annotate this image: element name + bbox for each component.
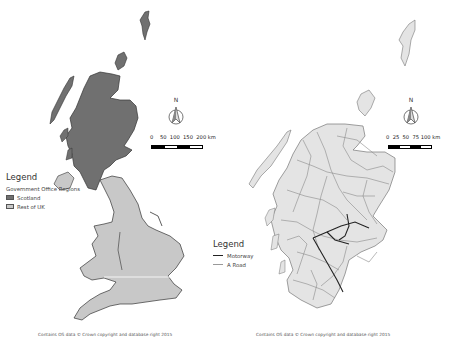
a-road-line-swatch bbox=[213, 264, 223, 265]
scotland-swatch bbox=[6, 195, 14, 200]
north-arrow-icon bbox=[401, 104, 421, 128]
uk-regions-map-panel: Legend Government Office Regions Scotlan… bbox=[0, 0, 227, 344]
legend-title: Legend bbox=[213, 239, 253, 249]
scale-bar-graphic bbox=[388, 145, 432, 149]
legend-item-a-road: A Road bbox=[213, 261, 253, 268]
north-label: N bbox=[401, 96, 421, 103]
copyright-credit: Contains OS data © Crown copyright and d… bbox=[38, 332, 172, 337]
north-arrow-icon bbox=[166, 104, 186, 128]
scale-labels: 0 25 50 75 100 km bbox=[386, 134, 440, 140]
legend-title: Legend bbox=[6, 172, 80, 182]
legend-item-rest-of-uk: Rest of UK bbox=[6, 203, 80, 210]
roads-legend: Legend Motorway A Road bbox=[213, 239, 253, 268]
orkney-shape bbox=[115, 52, 127, 70]
scale-labels: 0 50 100 150 200 km bbox=[150, 134, 216, 140]
north-arrow: N bbox=[401, 98, 421, 128]
england-wales-shape bbox=[74, 176, 184, 320]
rest-of-uk-swatch bbox=[6, 204, 14, 209]
legend-item-label: A Road bbox=[227, 262, 246, 268]
copyright-credit: Contains OS data © Crown copyright and d… bbox=[256, 332, 390, 337]
north-label: N bbox=[166, 96, 186, 103]
legend-item-motorway: Motorway bbox=[213, 252, 253, 259]
legend-item-label: Scotland bbox=[17, 195, 40, 201]
scotland-mainland-shape bbox=[271, 124, 395, 308]
legend-item-scotland: Scotland bbox=[6, 194, 80, 201]
legend-item-label: Rest of UK bbox=[17, 204, 45, 210]
regions-legend: Legend Government Office Regions Scotlan… bbox=[6, 172, 80, 210]
scotland-roads-map-panel: Legend Motorway A Road N 0 25 50 75 100 … bbox=[227, 0, 454, 344]
legend-item-label: Motorway bbox=[227, 253, 253, 259]
legend-subtitle: Government Office Regions bbox=[6, 186, 80, 192]
north-arrow: N bbox=[166, 98, 186, 128]
motorway-line-swatch bbox=[213, 255, 223, 256]
shetland-shape bbox=[140, 11, 150, 40]
scotland-roads-map bbox=[227, 0, 454, 344]
scale-bar-graphic bbox=[151, 145, 203, 149]
